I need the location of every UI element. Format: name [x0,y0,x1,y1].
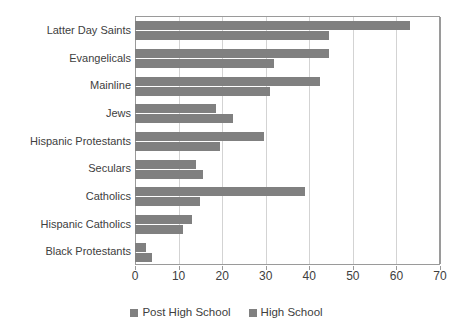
bar [135,59,274,68]
bar [135,77,320,86]
legend-entry[interactable]: Post High School [130,306,230,319]
bar [135,114,233,123]
legend-label: High School [261,306,323,319]
category-label: Seculars [0,162,131,174]
x-tick-label-20: 20 [215,268,228,284]
bar-group [135,45,439,73]
bar-group [135,155,439,183]
x-tick-label-10: 10 [172,268,185,284]
x-tick-label-0: 0 [132,268,139,284]
x-tick-label-50: 50 [346,268,359,284]
bar-group [135,128,439,156]
x-tick-label-70: 70 [433,268,446,284]
bar [135,215,192,224]
bar [135,31,329,40]
bar [135,243,146,252]
chart-legend: Post High SchoolHigh School [0,306,453,319]
category-label: Latter Day Saints [0,24,131,36]
category-label: Black Protestants [0,245,131,257]
x-tick-label-40: 40 [303,268,316,284]
bar-group [135,100,439,128]
category-axis-labels: Latter Day SaintsEvangelicalsMainlineJew… [0,16,131,265]
category-label: Hispanic Catholics [0,218,131,230]
bar-group [135,211,439,239]
legend-entry[interactable]: High School [249,306,323,319]
bar [135,87,270,96]
bar-group [135,17,439,45]
bar-group [135,238,439,266]
x-tick-label-60: 60 [390,268,403,284]
bar [135,160,196,169]
bar-group [135,183,439,211]
category-label: Hispanic Protestants [0,135,131,147]
bar-chart: Latter Day SaintsEvangelicalsMainlineJew… [0,0,453,334]
gridline-70 [440,17,441,264]
value-axis-labels: 010203040506070 [0,268,453,288]
bar [135,49,329,58]
bar-group [135,72,439,100]
bar [135,225,183,234]
x-tick-label-30: 30 [259,268,272,284]
bar [135,104,216,113]
bar [135,187,305,196]
category-label: Evangelicals [0,52,131,64]
plot-area [135,16,440,265]
bar [135,142,220,151]
legend-label: Post High School [142,306,230,319]
legend-swatch-high-school [249,309,257,317]
legend-swatch-post-high-school [130,309,138,317]
bar [135,253,152,262]
bar [135,132,264,141]
category-label: Jews [0,107,131,119]
category-label: Catholics [0,190,131,202]
bar [135,21,410,30]
bar [135,170,203,179]
bar [135,197,200,206]
category-label: Mainline [0,79,131,91]
bar-rows [135,17,439,264]
